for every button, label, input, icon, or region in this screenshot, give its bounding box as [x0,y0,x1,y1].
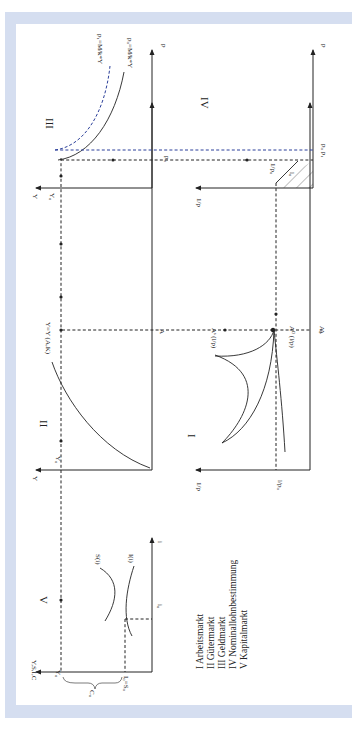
label-saving-curve: S(i) [94,554,102,565]
numeral-iv: IV [199,97,211,109]
label-p0-p1: p₀ p₁ [320,144,328,158]
legend-item-1: I Arbeitsmarkt [195,613,205,669]
label-axis-ysic: Y,S,I,C [30,660,38,681]
label-production-curve: Y=Y (A,K) [44,322,52,355]
label-curve-p0: p₀=M/k*Y [126,38,134,68]
legend-item-2: II Gütermarkt [206,616,216,669]
label-labor-supply: Aˢ (l/p) [210,328,218,349]
label-axis-1p-iv: 1/p [195,198,203,207]
label-axis-a-ii: A [158,329,166,334]
legend-item-4: IV Nominallohnbestimmung [228,559,238,669]
label-y0-ii: Y₀ [54,456,62,464]
numeral-ii: II [38,420,50,428]
numeral-iii: III [44,118,56,129]
label-c0: C₀ [88,690,96,698]
label-w0-i: l/p₀ [276,480,284,490]
legend-item-3: III Geldmarkt [217,616,227,669]
label-1p0-iv: 1/p₀ [269,163,277,175]
legend: I Arbeitsmarkt II Gütermarkt III Geldmar… [195,559,249,669]
label-i0: i₀ [156,604,164,609]
label-axis-p-iv: p [320,44,328,48]
numeral-v: V [38,596,50,604]
numeral-i: I [186,434,198,438]
label-l0: l₀ [288,172,296,177]
label-y0-iii: Y₀ [48,193,56,201]
label-investment-curve: I(i) [127,554,135,564]
legend-item-5: V Kapitalmarkt [239,609,249,669]
label-i0-s0: I₀=S₀ [122,676,130,692]
label-axis-i: i [156,541,164,543]
label-axis-1p-i: 1/p [195,482,203,491]
labels-layer: III IV II I V p₁=M/k*Y p₀=M/k*Y p Y Y₀ p… [0,0,352,730]
label-curve-p1: p₁=M/k*Y [96,34,104,64]
label-axis-y-iii: Y [31,194,39,199]
label-axis-y-ii: Y [31,476,39,481]
label-axis-p-iii: p [160,44,168,48]
label-y0-v: Y₀ [54,670,62,678]
label-p0-iii: p₀ [163,156,171,163]
label-a0: A₀ [318,326,326,334]
label-labor-demand: Aᴰ (l/p) [288,326,296,349]
